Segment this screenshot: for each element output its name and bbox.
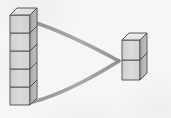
short-cube-stack (122, 33, 147, 80)
funnel-arc-upper-curve (33, 22, 119, 61)
cube-stack-diagram (0, 0, 171, 118)
diagram-canvas: 5 2 Cube stack comparison diagram (0, 0, 171, 118)
tall-cube-stack (10, 8, 37, 105)
funnel-arc (33, 22, 119, 102)
cube (122, 33, 147, 60)
cube (10, 8, 37, 33)
funnel-arc-lower-curve (33, 61, 119, 102)
